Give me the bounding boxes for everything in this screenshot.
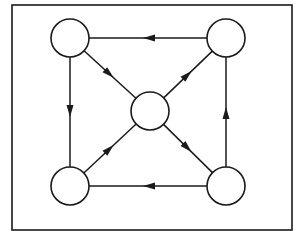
- edge-bottom-right-to-top-right: [223, 57, 230, 167]
- node-center: [131, 92, 169, 130]
- edge-bottom-right-to-bottom-left: [89, 183, 207, 190]
- arrowhead-icon: [67, 105, 74, 117]
- node-bottom-left: [51, 167, 89, 205]
- edge-top-left-to-center: [84, 51, 136, 98]
- arrowhead-icon: [223, 107, 230, 119]
- edge-top-left-to-bottom-left: [67, 57, 74, 167]
- edge-center-to-bottom-right: [164, 124, 213, 172]
- edge-center-to-top-right: [164, 51, 213, 98]
- arrowhead-icon: [143, 35, 155, 42]
- node-bottom-right: [207, 167, 245, 205]
- node-top-left: [51, 19, 89, 57]
- edge-bottom-left-to-center: [84, 124, 136, 173]
- arrowhead-icon: [143, 183, 155, 190]
- node-top-right: [207, 19, 245, 57]
- edge-top-right-to-top-left: [89, 35, 207, 42]
- directed-graph-diagram: [0, 0, 300, 239]
